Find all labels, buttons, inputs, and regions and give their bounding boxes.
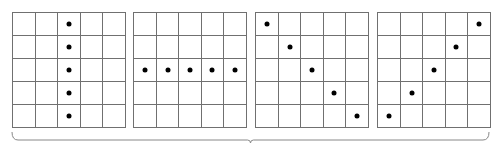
bottom-brace [0, 0, 500, 145]
